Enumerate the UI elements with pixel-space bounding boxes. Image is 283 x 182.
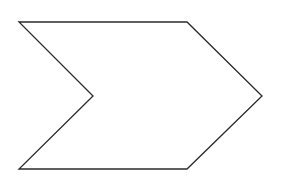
chevron-diagram xyxy=(0,0,283,182)
diagram-canvas xyxy=(0,0,283,182)
chevron-shape xyxy=(19,22,262,169)
